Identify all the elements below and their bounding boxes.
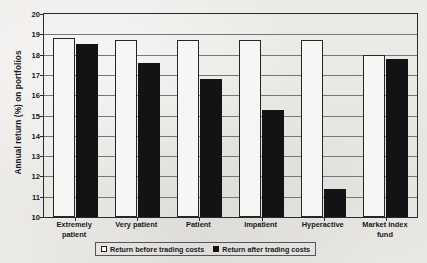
bar-return-after: [200, 79, 222, 217]
x-tick-label: Impatient: [230, 220, 292, 230]
y-tick-label: 11: [32, 192, 40, 201]
y-tick-label: 17: [32, 70, 40, 79]
legend-label: Return after trading costs: [222, 245, 310, 254]
x-tick-label: Extremelypatient: [43, 220, 105, 239]
bar-series-group: [44, 14, 417, 217]
bar-return-before: [115, 40, 137, 217]
x-tick-label-line: Very patient: [105, 220, 167, 230]
bar-return-after: [386, 59, 408, 217]
y-tick-label: 13: [32, 152, 40, 161]
y-tick-mark: [40, 217, 44, 218]
bar-group: [355, 14, 417, 217]
bar-group: [106, 14, 168, 217]
x-tick-label-line: Impatient: [230, 220, 292, 230]
chart-figure: Annual return (%) on portfolios 10111213…: [0, 0, 427, 263]
bar-return-before: [53, 38, 75, 217]
bar-return-before: [177, 40, 199, 217]
bar-group: [231, 14, 293, 217]
chart-legend: Return before trading costsReturn after …: [95, 242, 316, 256]
y-tick-label: 16: [32, 91, 40, 100]
bar-group: [168, 14, 230, 217]
bar-group: [44, 14, 106, 217]
x-tick-label-line: Patient: [167, 220, 229, 230]
bar-return-after: [138, 63, 160, 217]
legend-item: Return before trading costs: [101, 245, 204, 254]
legend-swatch-after-icon: [213, 246, 219, 252]
x-tick-label: Market indexfund: [354, 220, 416, 239]
bar-return-before: [363, 55, 385, 217]
bar-return-before: [301, 40, 323, 217]
y-tick-label: 20: [32, 10, 40, 19]
bar-return-after: [76, 44, 98, 217]
x-tick-label-line: Market index: [354, 220, 416, 230]
x-tick-label-line: patient: [43, 230, 105, 240]
y-tick-label: 10: [32, 213, 40, 222]
x-tick-label-line: Extremely: [43, 220, 105, 230]
x-tick-label: Patient: [167, 220, 229, 230]
x-tick-label-line: Hyperactive: [292, 220, 354, 230]
y-axis-title: Annual return (%) on portfolios: [14, 18, 23, 208]
x-axis-labels: ExtremelypatientVery patientPatientImpat…: [43, 220, 418, 242]
legend-item: Return after trading costs: [213, 245, 310, 254]
y-tick-label: 18: [32, 50, 40, 59]
legend-swatch-before-icon: [101, 246, 107, 252]
y-tick-label: 19: [32, 30, 40, 39]
y-tick-label: 15: [32, 111, 40, 120]
y-tick-label: 14: [32, 131, 40, 140]
x-tick-label: Hyperactive: [292, 220, 354, 230]
y-tick-label: 12: [32, 172, 40, 181]
plot-area: 1011121314151617181920: [43, 13, 418, 218]
bar-return-before: [239, 40, 261, 217]
bar-return-after: [324, 189, 346, 217]
x-tick-label: Very patient: [105, 220, 167, 230]
bar-group: [293, 14, 355, 217]
bar-return-after: [262, 110, 284, 217]
legend-label: Return before trading costs: [110, 245, 204, 254]
x-tick-label-line: fund: [354, 230, 416, 240]
